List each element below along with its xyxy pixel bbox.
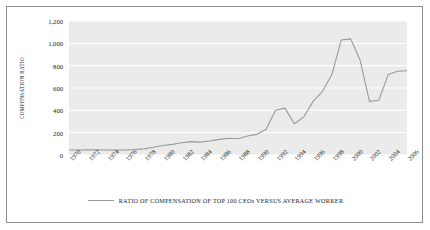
y-axis-tick: 1,200: [48, 18, 63, 25]
legend-label: RATIO OF COMPENSATION OF TOP 100 CEOs VE…: [119, 197, 344, 204]
line-chart-svg: [69, 21, 407, 155]
y-axis-title: COMPENSATION RATIO: [15, 21, 29, 155]
y-axis-tick: 800: [53, 62, 63, 69]
y-axis-tick-labels: 02004006008001,0001,200: [29, 21, 65, 155]
chart-legend: RATIO OF COMPENSATION OF TOP 100 CEOs VE…: [7, 197, 424, 204]
x-axis-tick: 2006: [406, 148, 420, 162]
y-axis-tick: 0: [60, 152, 63, 159]
y-axis-title-label: COMPENSATION RATIO: [19, 57, 25, 119]
x-axis-tick-labels: 1970197219741976197819801982198419861988…: [69, 155, 407, 191]
y-axis-tick: 400: [53, 107, 63, 114]
legend-line-swatch: [88, 200, 114, 201]
data-series-line: [69, 39, 407, 150]
gridlines: [69, 21, 407, 155]
plot-area: [69, 21, 407, 155]
y-axis-tick: 1,000: [48, 40, 63, 47]
chart-figure: COMPENSATION RATIO 02004006008001,0001,2…: [6, 6, 423, 223]
y-axis-tick: 600: [53, 85, 63, 92]
y-axis-tick: 200: [53, 129, 63, 136]
